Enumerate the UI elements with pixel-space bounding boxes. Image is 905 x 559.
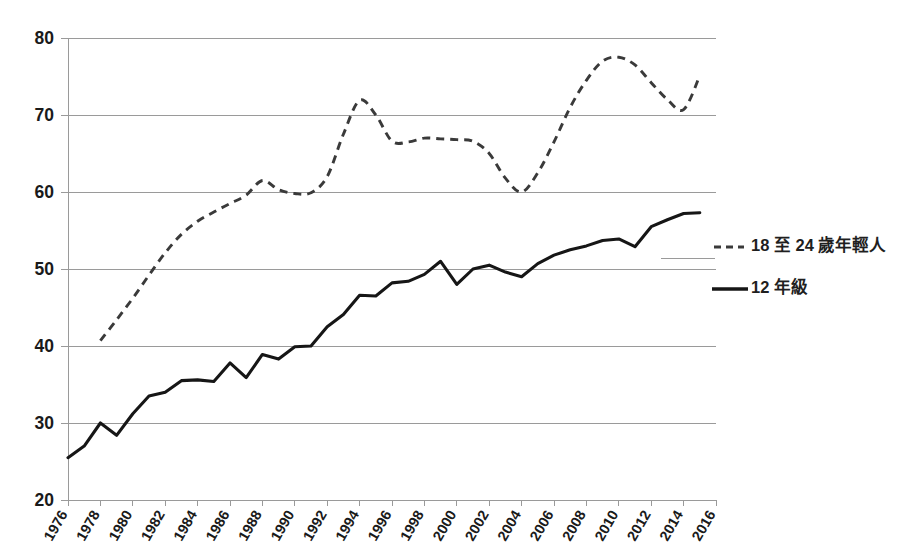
x-axis-tick-label: 2016	[689, 508, 719, 544]
x-axis-tick-label: 1982	[138, 508, 168, 544]
chart-container: 20304050607080 1976197819801982198419861…	[0, 0, 905, 559]
series-line-young-adults	[100, 57, 699, 341]
line-chart: 20304050607080 1976197819801982198419861…	[0, 0, 905, 559]
x-axis-tick-label: 1994	[332, 508, 362, 544]
x-axis-tick-label: 1980	[105, 508, 135, 544]
x-axis-labels: 1976197819801982198419861988199019921994…	[41, 508, 719, 544]
x-axis-tick-label: 2008	[559, 508, 589, 544]
x-axis-tick-label: 2014	[656, 508, 686, 544]
x-axis-tick-label: 1998	[397, 508, 427, 544]
x-axis-tick-label: 1990	[267, 508, 297, 544]
chart-legend: 18 至 24 歲年輕人12 年級	[712, 235, 886, 296]
y-axis-tick-label: 40	[35, 336, 55, 356]
y-axis-tick-label: 30	[35, 413, 55, 433]
x-axis-tick-label: 1976	[41, 508, 71, 544]
x-axis-tick-label: 1988	[235, 508, 265, 544]
series-group	[68, 57, 700, 458]
x-axis-tick-label: 1984	[170, 508, 200, 544]
y-axis-tick-label: 50	[35, 259, 55, 279]
x-axis-tick-label: 1978	[73, 508, 103, 544]
tickmarks-group	[61, 38, 716, 506]
x-axis-tick-label: 1986	[203, 508, 233, 544]
y-axis-labels: 20304050607080	[35, 28, 55, 510]
y-axis-tick-label: 60	[35, 182, 55, 202]
x-axis-tick-label: 2004	[494, 508, 524, 544]
x-axis-tick-label: 1996	[365, 508, 395, 544]
x-axis-tick-label: 2010	[591, 508, 621, 544]
x-axis-tick-label: 2012	[624, 508, 654, 544]
y-axis-tick-label: 70	[35, 105, 55, 125]
x-axis-tick-label: 1992	[300, 508, 330, 544]
gridlines-group	[68, 38, 716, 500]
x-axis-tick-label: 2006	[527, 508, 557, 544]
legend-label: 12 年級	[751, 277, 808, 296]
x-axis-tick-label: 2000	[429, 508, 459, 544]
legend-label: 18 至 24 歲年輕人	[751, 235, 886, 254]
series-line-grade-12	[68, 213, 700, 458]
x-axis-tick-label: 2002	[462, 508, 492, 544]
y-axis-tick-label: 20	[35, 490, 55, 510]
y-axis-tick-label: 80	[35, 28, 55, 48]
